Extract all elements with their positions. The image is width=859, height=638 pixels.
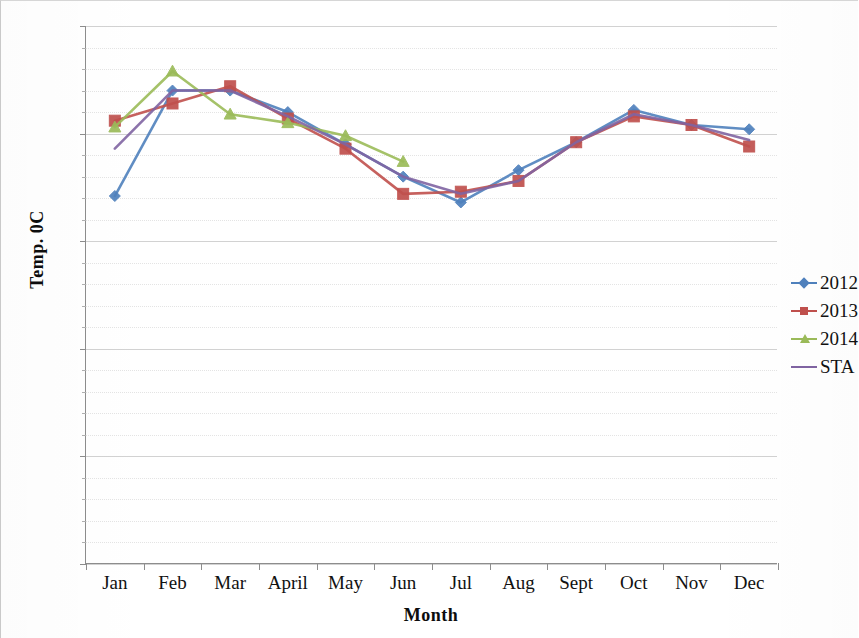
x-tick-mark (86, 563, 87, 570)
x-tick-mark (778, 563, 779, 570)
x-tick-mark (432, 563, 433, 570)
legend-swatch-icon (791, 332, 817, 346)
series-layer (86, 26, 778, 564)
data-point-marker (109, 191, 120, 202)
legend-line (791, 366, 817, 368)
data-point-marker (744, 124, 755, 135)
data-point-marker (398, 188, 409, 199)
legend-item-2012[interactable]: 2012 (791, 269, 859, 297)
legend-item-sta[interactable]: STA (791, 353, 859, 381)
data-point-marker (513, 165, 524, 176)
plot-area: 0510152025 JanFebMarAprilMayJunJulAugSep… (85, 26, 777, 564)
x-tick-mark (605, 563, 606, 570)
x-tick-mark (374, 563, 375, 570)
legend-label: STA (820, 357, 854, 377)
x-tick-mark (720, 563, 721, 570)
y-axis-title: Temp. 0C (27, 180, 48, 320)
legend-item-2014[interactable]: 2014 (791, 325, 859, 353)
legend-marker-square-icon (800, 307, 808, 315)
x-tick-mark (317, 563, 318, 570)
legend-swatch-icon (791, 276, 817, 290)
legend-marker-triangle-icon (800, 334, 810, 343)
series-line (115, 86, 749, 194)
legend-marker-diamond-icon (798, 277, 809, 288)
series-2013 (109, 81, 754, 200)
x-tick-mark (547, 563, 548, 570)
legend-label: 2013 (820, 301, 858, 321)
chart-legend: 201220132014STA (791, 269, 859, 381)
series-2014 (109, 65, 409, 166)
x-tick-label: Dec (704, 572, 794, 593)
legend-label: 2014 (820, 329, 858, 349)
legend-label: 2012 (820, 273, 858, 293)
data-point-marker (167, 98, 178, 109)
x-tick-mark (259, 563, 260, 570)
x-tick-mark (144, 563, 145, 570)
data-point-marker (167, 65, 179, 76)
series-STA (115, 91, 749, 194)
data-point-marker (744, 141, 755, 152)
series-line (115, 91, 749, 194)
legend-item-2013[interactable]: 2013 (791, 297, 859, 325)
legend-swatch-icon (791, 304, 817, 318)
x-tick-mark (201, 563, 202, 570)
x-tick-mark (663, 563, 664, 570)
data-point-marker (455, 197, 466, 208)
x-axis-title: Month (85, 605, 777, 626)
series-2012 (109, 85, 754, 208)
x-tick-mark (490, 563, 491, 570)
legend-swatch-icon (791, 360, 817, 374)
